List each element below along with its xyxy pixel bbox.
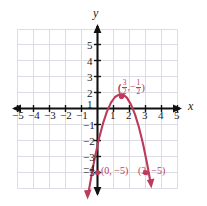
x-tick-neg3: −3 xyxy=(44,110,56,121)
vertex-annotation: (32,−12) xyxy=(118,79,145,96)
x-tick-neg2: −2 xyxy=(60,110,72,121)
y-intercept-annotation: (0, −5) xyxy=(101,166,128,176)
y-axis-label: y xyxy=(93,7,98,19)
y-tick-5: 5 xyxy=(87,40,93,51)
symmetric-point-annotation: (3, −5) xyxy=(138,166,165,176)
x-tick-5: 5 xyxy=(174,110,180,121)
vertex-close-paren: ) xyxy=(141,81,145,93)
y-tick-3: 3 xyxy=(87,72,93,83)
point-y-intercept xyxy=(95,170,100,175)
x-tick-neg4: −4 xyxy=(28,110,40,121)
y-tick-neg2: −2 xyxy=(83,136,95,147)
x-tick-2: 2 xyxy=(126,110,132,121)
y-tick-4: 4 xyxy=(87,56,93,67)
y-tick-neg1: −1 xyxy=(83,120,95,131)
x-axis-label: x xyxy=(188,100,193,112)
graph-figure: y x −5 −4 −3 −2 −1 1 2 3 4 5 5 4 3 2 1 −… xyxy=(0,0,207,206)
x-tick-4: 4 xyxy=(158,110,164,121)
x-tick-1: 1 xyxy=(110,110,116,121)
y-tick-neg5: −5 xyxy=(83,167,95,178)
x-tick-3: 3 xyxy=(142,110,148,121)
x-tick-neg5: −5 xyxy=(12,110,24,121)
y-tick-1: 1 xyxy=(87,99,93,110)
